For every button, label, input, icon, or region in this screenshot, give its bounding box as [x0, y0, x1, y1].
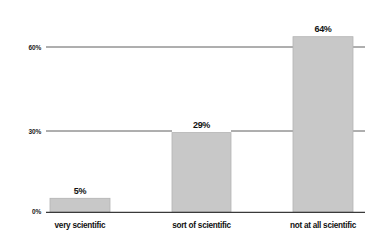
value-label-not-at-all-scientific: 64% — [314, 24, 331, 34]
value-label-sort-of-scientific: 29% — [193, 120, 210, 130]
y-axis-tick-label-60: 60% — [29, 44, 42, 51]
category-label-very-scientific: very scientific — [55, 221, 107, 230]
bar-sort-of-scientific[interactable] — [172, 133, 231, 212]
value-label-very-scientific: 5% — [74, 186, 87, 196]
y-axis-tick-label-0: 0% — [32, 208, 41, 215]
category-label-not-at-all-scientific: not at all scientific — [290, 221, 357, 230]
chart-canvas: 60% 30% 0% 5% 29% 64% very scientific so… — [0, 0, 375, 242]
bar-chart: 60% 30% 0% 5% 29% 64% very scientific so… — [0, 0, 375, 242]
bar-not-at-all-scientific[interactable] — [293, 37, 353, 212]
category-label-sort-of-scientific: sort of scientific — [172, 221, 231, 230]
bar-very-scientific[interactable] — [50, 198, 110, 212]
y-axis-tick-label-30: 30% — [29, 128, 42, 135]
